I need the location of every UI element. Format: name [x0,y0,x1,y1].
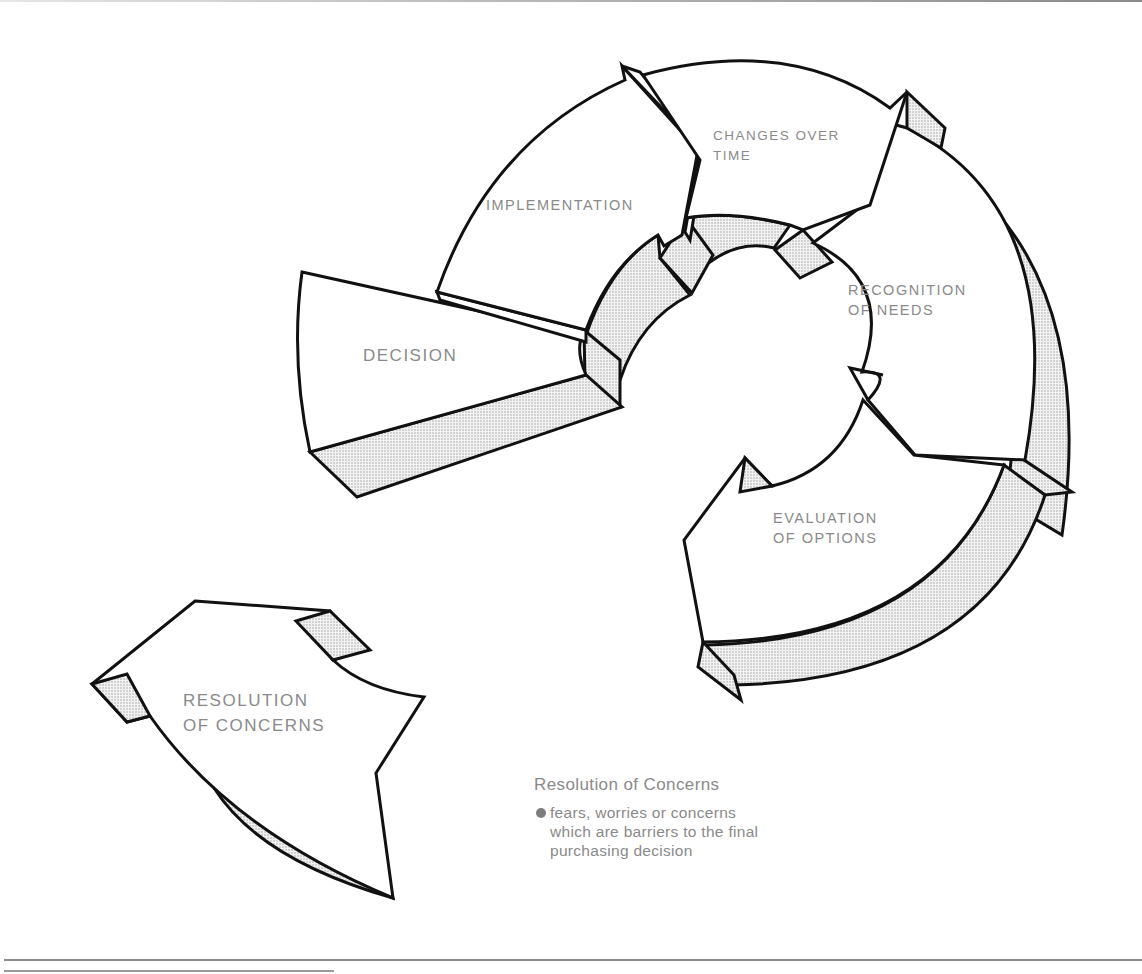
caption-title: Resolution of Concerns [534,775,780,795]
label-implementation: IMPLEMENTATION [486,197,634,213]
label-evaluation-line1: EVALUATION [773,510,878,526]
segment-resolution-of-concerns [92,601,424,898]
caption-bullet-text: fears, worries or concerns which are bar… [550,804,758,859]
caption-block: Resolution of Concerns fears, worries or… [534,775,780,860]
label-decision: DECISION [363,346,457,365]
label-resolution-line1: RESOLUTION [183,691,309,710]
caption-bullet: fears, worries or concerns which are bar… [534,803,780,860]
bottom-rule-secondary [4,970,334,972]
label-recognition-line1: RECOGNITION [848,282,967,298]
label-resolution-line2: OF CONCERNS [183,716,325,735]
label-changes-line2: TIME [713,148,751,163]
bullet-dot-icon [536,808,546,818]
label-evaluation-line2: OF OPTIONS [773,530,877,546]
label-recognition-line2: OF NEEDS [848,302,934,318]
label-changes-line1: CHANGES OVER [713,128,840,143]
bottom-rule [4,959,1142,961]
